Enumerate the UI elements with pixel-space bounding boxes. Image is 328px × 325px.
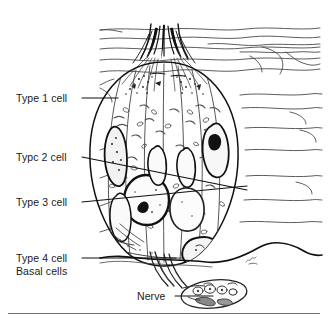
type-1-cell: [105, 127, 127, 186]
epithelium-left-striations: [100, 30, 122, 102]
nerve-bundle: [180, 277, 249, 312]
type-3-cell: [170, 188, 204, 231]
label-type-4-cell: Type 4 cell: [16, 252, 67, 264]
artist-signature-mark: [246, 257, 257, 264]
label-type-2-cell: Typc 2 cell: [16, 151, 67, 163]
footer-rule: [8, 313, 320, 314]
label-type-3-cell: Type 3 cell: [16, 196, 67, 208]
taste-pore-microvilli: [133, 24, 195, 63]
label-nerve: Nerve: [137, 290, 166, 302]
epithelium-striations: [100, 28, 320, 74]
basement-membrane: [100, 243, 322, 267]
figure-container: Type 1 cell Typc 2 cell Type 3 cell Type…: [0, 0, 328, 325]
label-type-1-cell: Type 1 cell: [16, 92, 67, 104]
label-basal-cells: Basal cells: [16, 265, 67, 277]
apical-stipple: [125, 73, 204, 95]
